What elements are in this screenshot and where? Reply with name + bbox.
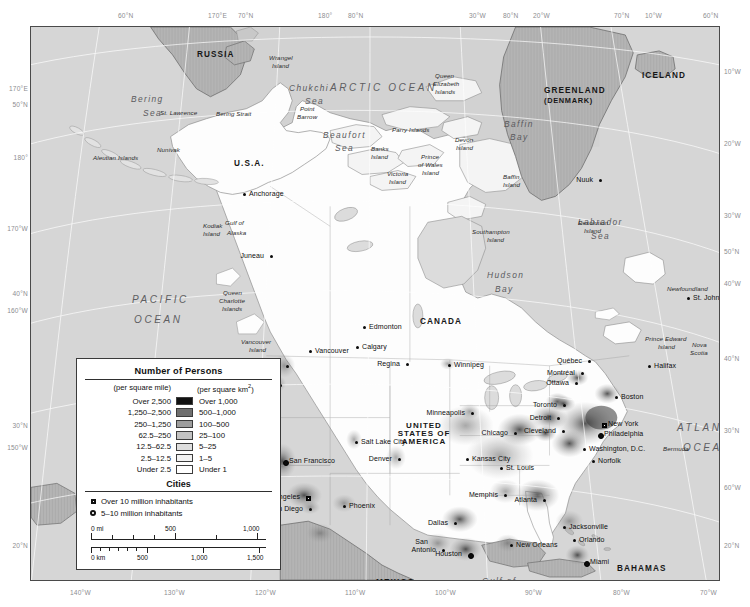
graticule-label: 30°N bbox=[2, 422, 28, 429]
island-label: Barrow bbox=[297, 114, 317, 120]
city-label: Orlando bbox=[579, 536, 605, 543]
city-marker bbox=[286, 365, 289, 368]
graticule-label: 10°W bbox=[724, 68, 741, 75]
legend-cities-title: Cities bbox=[85, 479, 272, 489]
legend-range-km: Over 1,000 bbox=[193, 397, 272, 406]
legend-range-km: 5–25 bbox=[193, 442, 272, 451]
legend-title: Number of Persons bbox=[85, 366, 272, 376]
graticule-label: 170°E bbox=[208, 12, 227, 19]
graticule-label: 170°W bbox=[2, 225, 28, 232]
city-marker bbox=[309, 508, 312, 511]
island-label: Islands bbox=[435, 89, 455, 95]
sea-label: Bay bbox=[495, 285, 514, 293]
legend-city-row: Over 10 million inhabitants bbox=[85, 495, 272, 507]
city-marker bbox=[599, 179, 602, 182]
city-marker bbox=[243, 193, 246, 196]
graticule-label: 20°N bbox=[724, 542, 740, 549]
city-label: Houston bbox=[435, 550, 462, 557]
map-canvas[interactable]: ARCTIC OCEANPACIFICOCEANATLANTICOCEAN Be… bbox=[30, 26, 720, 581]
city-label: Winnipeg bbox=[454, 361, 484, 368]
city-marker bbox=[448, 364, 451, 367]
population-density-map: 60°N170°E70°N180°80°N30°W80°N20°W70°N10°… bbox=[0, 0, 750, 607]
city-marker-megacity bbox=[306, 496, 311, 501]
city-marker bbox=[575, 382, 578, 385]
legend-column-headers: (per square mile) (per square km2) bbox=[85, 383, 272, 394]
city-marker bbox=[563, 404, 566, 407]
sea-label: Beaufort bbox=[323, 131, 366, 139]
island-label: Newfoundland bbox=[667, 286, 708, 292]
legend-city-row: 5–10 million inhabitants bbox=[85, 507, 272, 519]
city-label: Edmonton bbox=[369, 323, 402, 330]
island-label: Island bbox=[389, 179, 406, 185]
graticule-label: 50°N bbox=[724, 248, 740, 255]
city-label: San Francisco bbox=[289, 457, 335, 464]
city-label: Calgary bbox=[362, 343, 387, 350]
legend-row: Over 2,500Over 1,000 bbox=[85, 396, 272, 407]
city-marker-large bbox=[598, 433, 604, 439]
city-marker bbox=[356, 346, 359, 349]
scale-km-unit: 0 km bbox=[91, 554, 105, 561]
island-label: Charlotte bbox=[219, 298, 245, 304]
legend-range-km: Under 1 bbox=[193, 465, 272, 474]
ocean-label: ATLANTIC bbox=[677, 423, 720, 433]
city-marker bbox=[592, 460, 595, 463]
graticule-label: 60°N bbox=[703, 12, 719, 19]
graticule-label: 130°W bbox=[164, 589, 185, 596]
island-label: St. Lawrence bbox=[160, 110, 197, 116]
city-label: Jacksonville bbox=[569, 523, 608, 530]
city-marker-large bbox=[468, 553, 474, 559]
island-label: Elizabeth bbox=[433, 81, 459, 87]
island-label: Island bbox=[249, 347, 266, 353]
island-label: Bering Strait bbox=[216, 111, 251, 117]
island-label: Nova bbox=[692, 342, 707, 348]
island-label: Scotia bbox=[690, 350, 708, 356]
city-label: New Orleans bbox=[516, 541, 558, 548]
scale-mi-1000: 1,000 bbox=[243, 525, 260, 532]
legend-swatch bbox=[176, 408, 193, 417]
legend-range-mile: 250–1,250 bbox=[85, 420, 176, 429]
graticule-label: 70°N bbox=[614, 12, 630, 19]
island-label: Island bbox=[456, 145, 473, 151]
city-label: Juneau bbox=[240, 252, 264, 259]
graticule-label: 180° bbox=[318, 12, 332, 19]
legend-city-marker-circle bbox=[85, 510, 101, 516]
island-label: Queen bbox=[435, 73, 454, 79]
island-label: Island bbox=[584, 228, 601, 234]
country-label: GREENLAND bbox=[544, 87, 606, 95]
city-marker bbox=[562, 430, 565, 433]
graticule-label: 60°N bbox=[118, 12, 134, 19]
city-label: Philadelphia bbox=[604, 430, 643, 437]
sea-label: Baffin bbox=[504, 120, 534, 128]
city-marker-large bbox=[283, 460, 289, 466]
city-marker bbox=[583, 448, 586, 451]
city-marker bbox=[573, 539, 576, 542]
city-marker bbox=[270, 255, 273, 258]
city-label: Phoenix bbox=[349, 502, 375, 509]
sea-label: Sea bbox=[335, 144, 354, 152]
country-label: (DENMARK) bbox=[544, 97, 593, 104]
ocean-label: OCEAN bbox=[134, 315, 183, 325]
city-label: San bbox=[415, 538, 428, 545]
island-label: Devon bbox=[455, 137, 473, 143]
island-label: Prince Edward bbox=[645, 336, 687, 342]
city-marker bbox=[471, 412, 474, 415]
city-marker bbox=[398, 458, 401, 461]
city-label: Dallas bbox=[428, 519, 448, 526]
country-label: CANADA bbox=[420, 318, 462, 326]
graticule-label: 150°W bbox=[2, 444, 28, 451]
scale-km-1500: 1,500 bbox=[247, 554, 264, 561]
island-label: Southampton bbox=[472, 229, 510, 235]
ocean-label: PACIFIC bbox=[132, 295, 189, 305]
scale-km-1000: 1,000 bbox=[191, 554, 208, 561]
graticule-label: 40°N bbox=[724, 355, 740, 362]
city-marker bbox=[343, 505, 346, 508]
legend-swatch bbox=[176, 443, 193, 452]
island-label: Island bbox=[203, 231, 220, 237]
graticule-label: 90°W bbox=[525, 589, 542, 596]
city-label: Toronto bbox=[533, 401, 557, 408]
graticule-label: 80°N bbox=[503, 12, 519, 19]
city-label: Boston bbox=[621, 393, 643, 400]
graticule-label: 30°W bbox=[469, 12, 486, 19]
legend-row: 12.5–62.55–25 bbox=[85, 441, 272, 452]
sea-label: Bering bbox=[131, 95, 164, 103]
